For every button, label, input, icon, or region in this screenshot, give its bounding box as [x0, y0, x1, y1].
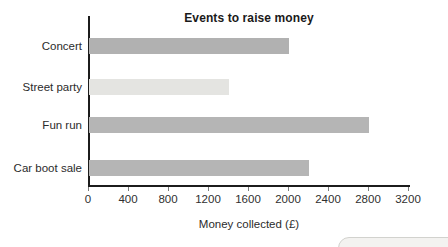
bar-concert	[89, 38, 289, 54]
tick-mark-3200	[408, 187, 409, 191]
tick-mark-800	[168, 187, 169, 191]
category-label-car-boot-sale: Car boot sale	[0, 160, 82, 176]
bar-fun-run	[89, 117, 369, 133]
tick-mark-1200	[208, 187, 209, 191]
bar-car-boot-sale	[89, 160, 309, 176]
tick-mark-2800	[368, 187, 369, 191]
tick-label-3200: 3200	[386, 193, 430, 205]
tick-mark-2400	[328, 187, 329, 191]
tick-mark-400	[128, 187, 129, 191]
tick-label-2800: 2800	[346, 193, 390, 205]
tick-label-2400: 2400	[306, 193, 350, 205]
corner-pill-decoration	[338, 237, 448, 247]
chart-title: Events to raise money	[89, 11, 409, 25]
chart-page: Events to raise money ConcertStreet part…	[0, 0, 448, 247]
tick-mark-1600	[248, 187, 249, 191]
tick-label-400: 400	[106, 193, 150, 205]
x-axis-title: Money collected (£)	[89, 218, 409, 230]
tick-label-0: 0	[66, 193, 110, 205]
tick-mark-0	[88, 187, 89, 191]
category-label-fun-run: Fun run	[0, 117, 82, 133]
tick-mark-2000	[288, 187, 289, 191]
category-label-concert: Concert	[0, 38, 82, 54]
tick-label-800: 800	[146, 193, 190, 205]
category-label-street-party: Street party	[0, 79, 82, 95]
tick-label-1200: 1200	[186, 193, 230, 205]
x-axis-line	[88, 185, 410, 187]
bar-street-party	[89, 79, 229, 95]
tick-label-2000: 2000	[266, 193, 310, 205]
tick-label-1600: 1600	[226, 193, 270, 205]
